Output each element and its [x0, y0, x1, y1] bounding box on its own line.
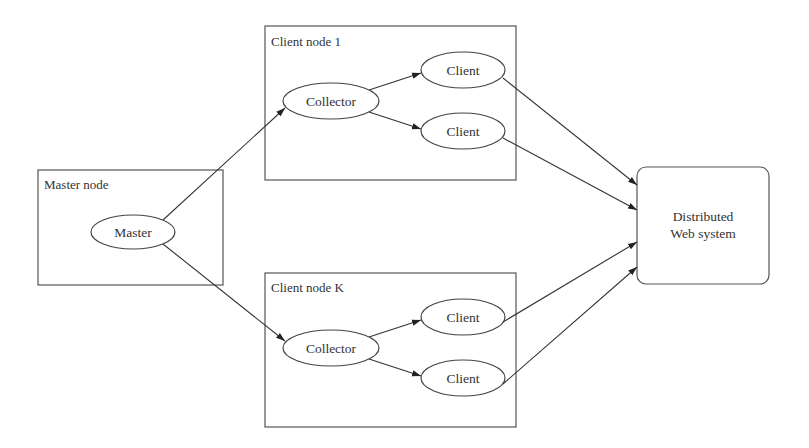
distributed-web-system-label-line2: Web system [670, 226, 736, 241]
client-1b-node: Client [421, 113, 505, 149]
master-node-label: Master node [44, 177, 109, 192]
architecture-diagram: Master node Client node 1 Client node K … [0, 0, 809, 448]
distributed-web-system-label-line1: Distributed [673, 209, 734, 224]
collector-1-node: Collector [283, 83, 379, 119]
client-kb-node: Client [421, 360, 505, 396]
edge-client-1a-to-web-system [503, 78, 637, 185]
collector-k-label: Collector [306, 341, 357, 356]
edge-client-ka-to-web-system [503, 242, 637, 322]
edge-client-1b-to-web-system [503, 138, 637, 210]
edge-client-kb-to-web-system [503, 267, 637, 384]
client-ka-label: Client [447, 310, 480, 325]
master-label: Master [114, 225, 152, 240]
client-1b-label: Client [447, 124, 480, 139]
collector-1-label: Collector [306, 94, 357, 109]
client-node-k-label: Client node K [271, 280, 345, 295]
distributed-web-system-box: Distributed Web system [637, 167, 769, 284]
client-node-1-label: Client node 1 [271, 34, 341, 49]
master-node: Master [91, 215, 175, 249]
collector-k-node: Collector [283, 330, 379, 366]
client-ka-node: Client [421, 299, 505, 335]
client-kb-label: Client [447, 371, 480, 386]
client-1a-label: Client [447, 63, 480, 78]
client-1a-node: Client [421, 52, 505, 88]
